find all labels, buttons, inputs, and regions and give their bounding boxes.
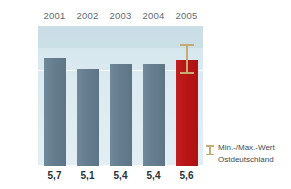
error-bar-stem <box>186 44 188 74</box>
year-label-2003: 2003 <box>104 8 137 24</box>
bar-slot-2005 <box>170 26 203 166</box>
legend: Min.-/Max.-Wert Ostdeutschland <box>206 143 291 165</box>
bar-group <box>38 26 203 166</box>
year-label-2002: 2002 <box>71 8 104 24</box>
bar-2005 <box>176 60 198 166</box>
legend-label-line2: Ostdeutschland <box>218 155 291 165</box>
value-label-2005: 5,6 <box>170 169 203 185</box>
bar-2001 <box>44 58 66 166</box>
plot-area <box>38 26 203 166</box>
bar-slot-2004 <box>137 26 170 166</box>
year-label-2004: 2004 <box>137 8 170 24</box>
value-label-2001: 5,7 <box>38 169 71 185</box>
year-label-2001: 2001 <box>38 8 71 24</box>
value-label-row: 5,7 5,1 5,4 5,4 5,6 <box>38 169 203 185</box>
bar-2002 <box>77 69 99 166</box>
bar-chart: 2001 2002 2003 2004 2005 5% 0% <box>0 0 291 189</box>
legend-label-line1: Min.-/Max.-Wert <box>218 143 275 153</box>
bar-slot-2003 <box>104 26 137 166</box>
year-axis: 2001 2002 2003 2004 2005 <box>38 8 203 24</box>
year-label-2005: 2005 <box>170 8 203 24</box>
value-label-2003: 5,4 <box>104 169 137 185</box>
error-bar-icon-cap-bottom <box>206 154 214 156</box>
bar-slot-2002 <box>71 26 104 166</box>
bar-2003 <box>110 64 132 166</box>
error-bar-2005 <box>180 44 194 74</box>
value-label-2002: 5,1 <box>71 169 104 185</box>
error-bar-cap-min <box>180 72 194 74</box>
value-label-2004: 5,4 <box>137 169 170 185</box>
error-bar-icon <box>206 145 214 155</box>
bar-slot-2001 <box>38 26 71 166</box>
legend-entry-minmax: Min.-/Max.-Wert <box>206 143 291 155</box>
bar-2004 <box>143 64 165 166</box>
